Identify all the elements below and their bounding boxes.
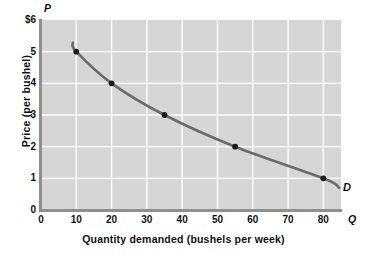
plot-area (41, 20, 341, 210)
horizontal-gridlines (41, 52, 341, 179)
x-tick-label-80: 80 (308, 214, 338, 225)
x-tick-label-20: 20 (97, 214, 127, 225)
x-tick-label-10: 10 (61, 214, 91, 225)
x-tick-label-40: 40 (167, 214, 197, 225)
demand-curve-svg (41, 20, 341, 210)
x-axis-title: Quantity demanded (bushels per week) (0, 233, 367, 245)
x-tick-label-0: 0 (26, 214, 56, 225)
demand-curve-label: D (343, 181, 351, 193)
y-axis-symbol: P (44, 2, 51, 14)
x-axis-symbol: Q (348, 213, 356, 225)
y-axis-title: Price (per bushel) (20, 21, 32, 181)
x-tick-label-70: 70 (273, 214, 303, 225)
x-tick-label-30: 30 (132, 214, 162, 225)
x-tick-label-50: 50 (202, 214, 232, 225)
x-axis-line (39, 209, 342, 212)
x-tick-label-60: 60 (238, 214, 268, 225)
y-axis-line (39, 19, 42, 211)
demand-curve-figure: P 012345$6 01020304050607080 Q D Price (… (0, 0, 367, 255)
